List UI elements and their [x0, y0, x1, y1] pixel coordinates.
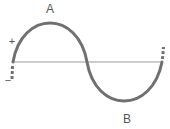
peak-label: A	[46, 2, 54, 16]
end-dashed-extension	[163, 47, 164, 59]
sine-wave-diagram: A B + −	[0, 0, 170, 129]
trough-label: B	[123, 112, 131, 126]
negative-sign-label: −	[5, 74, 11, 86]
positive-sign-label: +	[9, 35, 15, 47]
start-dashed-extension	[12, 66, 13, 79]
